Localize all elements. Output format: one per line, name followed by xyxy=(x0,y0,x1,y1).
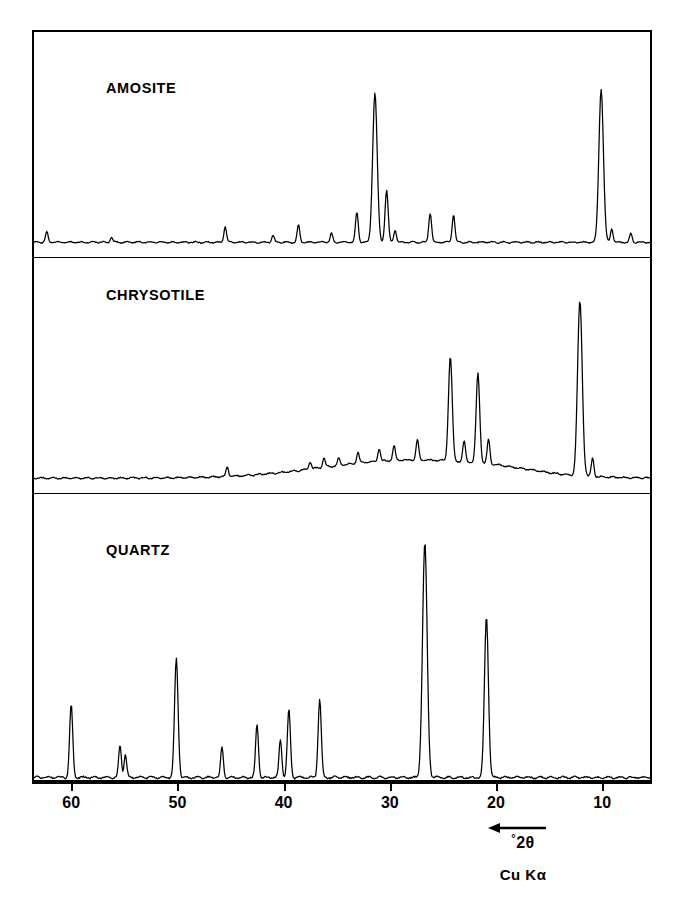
xrd-figure: AMOSITE CHRYSOTILE QUARTZ 605040302010 °… xyxy=(0,0,680,903)
x-tick-60 xyxy=(71,782,73,791)
plot-frame: AMOSITE CHRYSOTILE QUARTZ xyxy=(32,30,652,782)
x-tick-label-60: 60 xyxy=(62,794,80,812)
axis-line xyxy=(32,782,652,784)
x-tick-label-10: 10 xyxy=(593,794,611,812)
x-tick-50 xyxy=(177,782,179,791)
axis-caption-2theta: °2θ xyxy=(478,832,568,852)
x-axis: 605040302010 xyxy=(32,782,652,800)
trace-amosite xyxy=(34,32,650,780)
two-theta-label: 2θ xyxy=(516,834,535,851)
trace-amosite xyxy=(34,90,650,244)
x-tick-30 xyxy=(390,782,392,791)
x-tick-20 xyxy=(496,782,498,791)
x-tick-label-40: 40 xyxy=(275,794,293,812)
trace-chrysotile xyxy=(34,302,650,479)
x-tick-label-30: 30 xyxy=(381,794,399,812)
x-tick-label-50: 50 xyxy=(168,794,186,812)
x-tick-40 xyxy=(284,782,286,791)
trace-quartz xyxy=(34,545,650,779)
x-tick-label-20: 20 xyxy=(487,794,505,812)
x-tick-10 xyxy=(602,782,604,791)
panel-label-quartz: QUARTZ xyxy=(106,542,170,558)
panel-label-chrysotile: CHRYSOTILE xyxy=(106,287,205,303)
direction-arrow-icon xyxy=(488,820,548,832)
panel-label-amosite: AMOSITE xyxy=(106,80,176,96)
radiation-label: Cu Kα xyxy=(478,866,568,883)
